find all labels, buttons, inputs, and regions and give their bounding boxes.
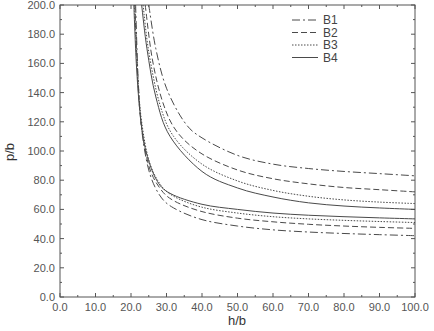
y-tick-label: 120.0: [27, 116, 55, 128]
legend: B1B2B3B4: [292, 13, 338, 65]
y-axis-title: p/b: [2, 143, 17, 161]
series-b4-upper: [142, 5, 415, 209]
x-tick-label: 90.0: [369, 301, 390, 313]
series-b4-lower: [134, 5, 415, 219]
series-b1-lower: [136, 5, 415, 236]
x-tick-label: 50.0: [227, 301, 248, 313]
series-b1-upper: [149, 5, 415, 176]
x-tick-label: 20.0: [120, 301, 141, 313]
y-tick-label: 200.0: [27, 0, 55, 11]
plot-area-border: [60, 5, 415, 297]
series-b3-lower: [135, 5, 415, 223]
x-axis-title: h/b: [228, 313, 246, 328]
x-axis: 0.010.020.030.040.050.060.070.080.090.01…: [52, 5, 428, 313]
x-tick-label: 30.0: [156, 301, 177, 313]
x-tick-label: 10.0: [85, 301, 106, 313]
x-tick-label: 70.0: [298, 301, 319, 313]
x-tick-label: 100.0: [401, 301, 429, 313]
y-tick-label: 140.0: [27, 87, 55, 99]
y-tick-label: 0.0: [40, 291, 55, 303]
series-b2-upper: [145, 5, 415, 192]
y-tick-label: 160.0: [27, 57, 55, 69]
y-tick-label: 60.0: [34, 203, 55, 215]
x-tick-label: 60.0: [262, 301, 283, 313]
chart: 0.010.020.030.040.050.060.070.080.090.01…: [0, 0, 434, 331]
y-axis: 0.020.040.060.080.0100.0120.0140.0160.01…: [27, 0, 415, 303]
y-tick-label: 180.0: [27, 28, 55, 40]
plot-frame: [60, 5, 415, 297]
y-tick-label: 80.0: [34, 174, 55, 186]
y-tick-label: 20.0: [34, 262, 55, 274]
x-tick-label: 40.0: [191, 301, 212, 313]
y-tick-label: 100.0: [27, 145, 55, 157]
series-b2-lower: [135, 5, 415, 228]
legend-label-b4: B4: [323, 51, 338, 65]
x-tick-label: 80.0: [333, 301, 354, 313]
data-series: [134, 5, 415, 236]
y-tick-label: 40.0: [34, 233, 55, 245]
